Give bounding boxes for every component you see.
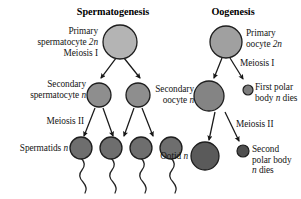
cell-spermatid-1 xyxy=(70,137,92,159)
label-secondary-spermatocyte-line2: spermatocyte n xyxy=(4,90,86,101)
label-meiosis-2-sperm: Meiosis II xyxy=(6,116,84,126)
label-second-polar-body-line1: Second xyxy=(252,144,300,155)
label-primary-oocyte-line2: oocyte 2n xyxy=(246,39,301,50)
label-spermatids: Spermatids n xyxy=(6,143,68,153)
label-secondary-spermatocyte-line1: Secondary xyxy=(4,79,86,90)
cell-spermatid-2 xyxy=(100,137,122,159)
label-second-polar-body-line2: polar body xyxy=(252,155,300,166)
label-primary-oocyte-line1: Primary xyxy=(246,28,301,39)
label-secondary-spermatocyte: Secondary spermatocyte n xyxy=(4,79,86,100)
label-secondary-oocyte-line2: oocyte n xyxy=(146,95,194,106)
label-second-polar-body-line3: n dies xyxy=(252,165,300,176)
cell-first-polar-body xyxy=(243,85,253,95)
label-second-polar-body: Second polar body n dies xyxy=(252,144,300,176)
label-secondary-oocyte: Secondary oocyte n xyxy=(146,84,194,105)
label-first-polar-body: First polar body n dies xyxy=(255,82,301,103)
label-ootid: Ootid n xyxy=(150,151,188,161)
cell-second-polar-body xyxy=(237,145,249,157)
label-primary-spermatocyte-line2: spermatocyte 2n xyxy=(6,37,98,48)
cell-primary-oocyte xyxy=(210,26,242,58)
label-secondary-oocyte-line1: Secondary xyxy=(146,84,194,95)
cell-secondary-spermatocyte-1 xyxy=(87,83,111,107)
label-primary-spermatocyte: Primary spermatocyte 2n xyxy=(6,26,98,47)
meiosis-comparison-figure: Spermatogenesis Oogenesis xyxy=(0,0,301,199)
cell-primary-spermatocyte xyxy=(103,25,137,59)
cell-ootid xyxy=(191,142,219,170)
label-meiosis-1-sperm: Meiosis I xyxy=(6,48,98,58)
cell-secondary-oocyte xyxy=(194,81,224,111)
cell-spermatid-3 xyxy=(130,137,152,159)
label-primary-oocyte: Primary oocyte 2n xyxy=(246,28,301,49)
label-primary-spermatocyte-line1: Primary xyxy=(6,26,98,37)
label-meiosis-1-oo: Meiosis I xyxy=(240,58,300,68)
label-meiosis-2-oo: Meiosis II xyxy=(236,119,296,129)
label-first-polar-body-line1: First polar xyxy=(255,82,301,93)
label-first-polar-body-line2: body n dies xyxy=(255,93,301,104)
